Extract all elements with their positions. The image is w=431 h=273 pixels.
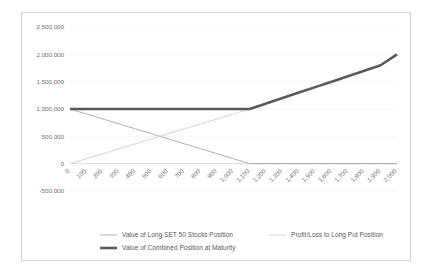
y-axis-tick-label: 2,500,000 [36, 23, 64, 30]
legend-label[interactable]: Value of Combined Position at Maturity [122, 244, 236, 252]
x-axis-tick-label: 0 [63, 167, 71, 175]
y-axis-tick-label: 0 [61, 160, 65, 167]
chart-frame: -500,0000500,0001,000,0001,500,0002,000,… [21, 12, 411, 261]
y-axis-tick-label: 1,500,000 [36, 78, 64, 85]
y-axis-tick-labels: -500,0000500,0001,000,0001,500,0002,000,… [36, 23, 64, 194]
line-chart: -500,0000500,0001,000,0001,500,0002,000,… [22, 13, 410, 260]
x-axis-tick-label: 700 [173, 167, 186, 180]
x-axis-tick-label: 1,600 [316, 167, 332, 183]
x-axis-tick-label: 1,000 [218, 167, 234, 183]
x-axis-tick-label: 500 [140, 167, 153, 180]
x-axis-tick-label: 900 [206, 167, 219, 180]
x-axis-tick-label: 400 [124, 167, 137, 180]
x-axis-tick-label: 1,800 [349, 167, 365, 183]
x-axis-tick-labels: 01002003004005006007008009001,0001,1001,… [63, 167, 398, 183]
x-axis-tick-label: 1,300 [267, 167, 283, 183]
x-axis-tick-label: 1,500 [300, 167, 316, 183]
x-axis-tick-label: 1,100 [235, 167, 251, 183]
x-axis-tick-label: 600 [157, 167, 170, 180]
x-axis-tick-label: 200 [91, 167, 104, 180]
x-axis-tick-label: 1,400 [284, 167, 300, 183]
y-axis-tick-label: 500,000 [42, 133, 65, 140]
y-axis-tick-label: 1,000,000 [36, 105, 64, 112]
x-axis-tick-label: 2,000 [382, 167, 398, 183]
x-axis-tick-label: 800 [189, 167, 202, 180]
y-axis-tick-label: 2,000,000 [36, 51, 64, 58]
x-axis-tick-label: 300 [108, 167, 121, 180]
legend-label[interactable]: Profit/Loss to Long Put Position [291, 231, 383, 239]
x-axis-tick-label: 1,900 [365, 167, 381, 183]
x-axis-tick-label: 1,700 [333, 167, 349, 183]
x-axis-tick-label: 100 [75, 167, 88, 180]
chart-legend: Value of Long SET 50 Stocks PositionProf… [100, 231, 383, 252]
x-axis-tick-label: 1,200 [251, 167, 267, 183]
legend-label[interactable]: Value of Long SET 50 Stocks Position [122, 231, 233, 239]
y-axis-tick-label: -500,000 [40, 187, 65, 194]
